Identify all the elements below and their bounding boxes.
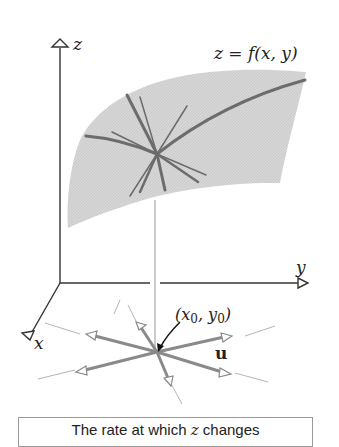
point-pointer — [160, 322, 180, 348]
surface — [68, 70, 307, 228]
z-axis-label: z — [72, 34, 83, 54]
arrowhead-icon — [86, 331, 97, 340]
caption-suffix: changes — [199, 421, 260, 438]
arrowhead-icon — [164, 376, 173, 386]
x-axis-arrow-icon — [22, 331, 34, 340]
caption-prefix: The rate at which — [71, 421, 190, 438]
vector-u-label: u — [215, 343, 227, 363]
x-axis-label: x — [34, 333, 44, 353]
caption-box: The rate at which z changes — [18, 417, 313, 447]
arrowhead-icon — [76, 366, 87, 375]
z-axis-arrow-icon — [52, 39, 68, 47]
caption-variable: z — [191, 421, 199, 439]
point-label: (x0, y0) — [175, 305, 231, 326]
y-axis-label: y — [295, 257, 306, 277]
arrowhead-icon — [219, 368, 231, 377]
arrowhead-icon — [221, 333, 232, 342]
x-axis — [32, 283, 60, 332]
arrowhead-icon — [136, 322, 146, 330]
surface-label: z = f(x, y) — [213, 43, 298, 63]
y-axis-arrow-icon — [298, 278, 308, 288]
